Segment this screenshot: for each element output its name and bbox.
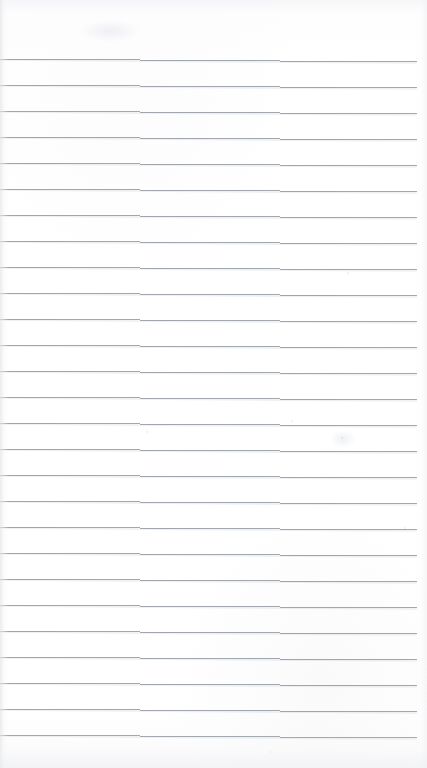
- scanned-page: Blank scanned page of lined notebook pap…: [0, 0, 427, 768]
- ruled-lines-layer: [0, 0, 427, 768]
- ruled-lines-svg: [0, 0, 427, 768]
